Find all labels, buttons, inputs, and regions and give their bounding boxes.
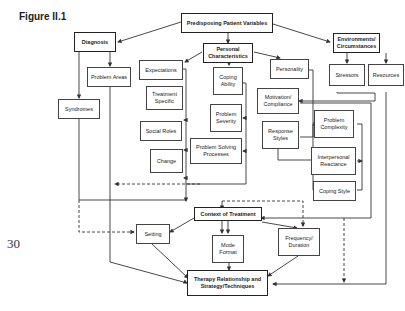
node-social-roles: Social Roles — [140, 121, 182, 141]
node-change: Change — [150, 149, 183, 173]
node-mode-format: Mode Format — [212, 235, 244, 263]
node-coping-style: Coping Style — [313, 181, 356, 201]
node-response-styles: Response Styles — [262, 121, 299, 149]
node-frequency-duration: Frequency/ Duration — [278, 228, 320, 256]
node-problem-solving: Problem Solving Processes — [190, 138, 242, 164]
node-personality: Personality — [270, 59, 309, 79]
node-therapy-relationship: Therapy Relationship and Strategy/Techni… — [187, 270, 268, 296]
node-setting: Setting — [136, 224, 170, 244]
node-coping-ability: Coping Ability — [213, 67, 243, 95]
node-context-of-treatment: Context of Treatment — [194, 207, 262, 221]
node-stressors: Stressors — [329, 64, 365, 86]
node-personal-characteristics: Personal Characteristics — [203, 43, 253, 63]
node-expectations: Expectations — [139, 60, 183, 80]
node-interpersonal-reactance: Interpersonal Reactance — [311, 147, 356, 175]
node-problem-areas: Problem Areas — [87, 67, 131, 87]
node-problem-severity: Problem Severity — [210, 104, 242, 132]
node-motivation: Motivation/ Compliance — [257, 88, 299, 114]
node-resources: Resources — [368, 64, 404, 86]
node-diagnosis: Diagnosis — [74, 32, 116, 52]
node-predisposing: Predisposing Patient Variables — [181, 13, 273, 33]
node-problem-complexity: Problem Complexity — [314, 110, 354, 138]
node-treatment-specific: Treatment Specific — [146, 86, 183, 110]
node-environments: Environments/ Circumstances — [333, 33, 380, 53]
node-syndromes: Syndromes — [58, 99, 100, 119]
